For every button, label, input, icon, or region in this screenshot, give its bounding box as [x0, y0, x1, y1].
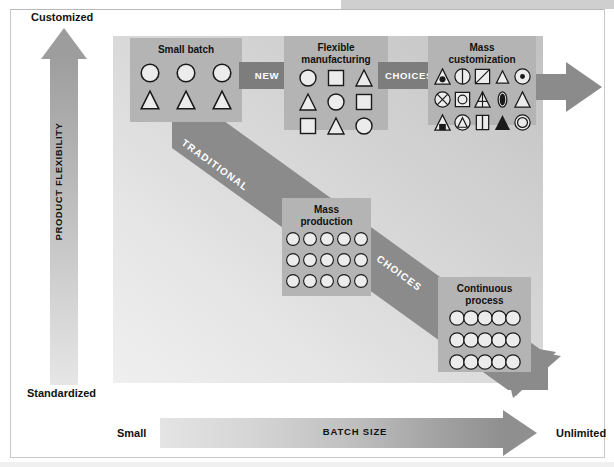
box-mass-production-title-line2: production — [282, 216, 371, 228]
page-border-bottom — [10, 457, 605, 458]
circle-shape — [336, 252, 352, 272]
circle-dot-shape — [513, 67, 532, 90]
shape-row — [438, 309, 531, 331]
box-small-batch-title: Small batch — [130, 38, 242, 56]
circle-shape — [285, 252, 301, 272]
page-border-top — [10, 9, 605, 10]
oval-filled-shape — [493, 90, 512, 113]
triangle-small-shape — [493, 67, 512, 90]
circle-shape — [353, 273, 369, 293]
circle-shape — [336, 231, 352, 251]
box-flexible-title-line1: Flexible — [284, 42, 388, 54]
circle-shape — [336, 273, 352, 293]
circle-ring-shape — [513, 113, 532, 136]
x-axis-left-label: Small — [117, 427, 146, 439]
triangle-lines-shape — [473, 90, 492, 113]
shape-row — [282, 273, 371, 293]
circle-shape — [319, 231, 335, 251]
diagram-canvas: Customized PRODUCT FLEXIBILITY Standardi… — [0, 0, 614, 467]
shape-row — [428, 90, 536, 113]
y-axis-label: PRODUCT FLEXIBILITY — [53, 102, 64, 262]
scan-artifact-top — [341, 0, 614, 9]
circle-shape — [302, 252, 318, 272]
box-flexible-title-line2: manufacturing — [284, 54, 388, 66]
shape-row — [282, 231, 371, 251]
top-right-arrowhead — [566, 62, 602, 112]
box-small-batch[interactable]: Small batch — [130, 38, 242, 122]
square-shape — [354, 92, 374, 116]
box-continuous-process[interactable]: Continuous process — [438, 277, 531, 372]
scan-artifact-bottom — [0, 462, 614, 467]
y-axis-top-label: Customized — [31, 11, 93, 23]
triangle-shape — [139, 89, 161, 115]
x-axis-right-label: Unlimited — [556, 427, 606, 439]
circle-triangle-shape — [453, 113, 472, 136]
box-mass-customization-title-line1: Mass — [428, 42, 536, 54]
triangle-shape — [298, 92, 318, 116]
shape-row — [428, 67, 536, 90]
circle-shape — [353, 231, 369, 251]
box-continuous-title-line1: Continuous — [438, 283, 531, 295]
square-circle-shape — [453, 90, 472, 113]
box-continuous-shapes — [438, 309, 531, 375]
triangle-filled-shape — [493, 113, 512, 136]
box-continuous-title-line2: process — [438, 295, 531, 307]
shape-row — [428, 113, 536, 136]
circle-overlapping-shape — [504, 353, 522, 375]
y-axis-arrow: PRODUCT FLEXIBILITY — [41, 28, 87, 385]
circle-shape — [211, 62, 233, 88]
box-continuous-title: Continuous process — [438, 277, 531, 306]
box-mass-customization-title: Mass customization — [428, 36, 536, 65]
triangle-dot-shape — [433, 67, 452, 90]
shape-row — [298, 116, 374, 140]
circle-overlapping-shape — [504, 331, 522, 353]
box-mass-production-title-line1: Mass — [282, 204, 371, 216]
x-axis-arrow: BATCH SIZE — [160, 410, 555, 456]
circle-shape — [354, 116, 374, 140]
circle-shape — [285, 231, 301, 251]
page-border-right — [604, 9, 605, 458]
shape-row — [438, 353, 531, 375]
shape-row — [298, 68, 374, 92]
circle-half-shape — [453, 67, 472, 90]
y-axis-arrowhead — [41, 28, 87, 59]
triangle-shape — [326, 116, 346, 140]
box-flexible-shapes — [284, 68, 388, 140]
circle-shape — [319, 273, 335, 293]
circle-shape — [319, 252, 335, 272]
box-mass-production-title: Mass production — [282, 198, 371, 227]
page-border-left — [10, 9, 11, 458]
triangle-square-shape — [433, 113, 452, 136]
circle-shape — [175, 62, 197, 88]
square-shape — [298, 116, 318, 140]
shape-row — [438, 331, 531, 353]
x-axis-arrowhead — [503, 410, 537, 456]
circle-shape — [285, 273, 301, 293]
triangle-shape — [211, 89, 233, 115]
circle-shape — [298, 68, 318, 92]
box-mass-production-shapes — [282, 231, 371, 293]
box-small-batch-shapes — [130, 62, 242, 116]
circle-overlapping-shape — [504, 309, 522, 331]
triangle-shape — [175, 89, 197, 115]
circle-shape — [302, 231, 318, 251]
rect-split-shape — [473, 113, 492, 136]
x-axis-label: BATCH SIZE — [290, 426, 420, 437]
shape-row — [139, 89, 233, 115]
box-mass-customization-shapes — [428, 67, 536, 136]
box-flexible-manufacturing[interactable]: Flexible manufacturing — [284, 36, 388, 130]
shape-row — [282, 252, 371, 272]
circle-shape — [139, 62, 161, 88]
square-diagonal-shape — [473, 67, 492, 90]
shape-row — [139, 62, 233, 88]
box-mass-production[interactable]: Mass production — [282, 198, 371, 296]
box-flexible-title: Flexible manufacturing — [284, 36, 388, 65]
circle-shape — [302, 273, 318, 293]
circle-shape — [326, 92, 346, 116]
connector-choices-top-label: CHOICES — [385, 70, 433, 81]
box-mass-customization[interactable]: Mass customization — [428, 36, 536, 125]
triangle-plain-shape — [513, 90, 532, 113]
square-shape — [326, 68, 346, 92]
circle-x-shape — [433, 90, 452, 113]
box-mass-customization-title-line2: customization — [428, 54, 536, 66]
